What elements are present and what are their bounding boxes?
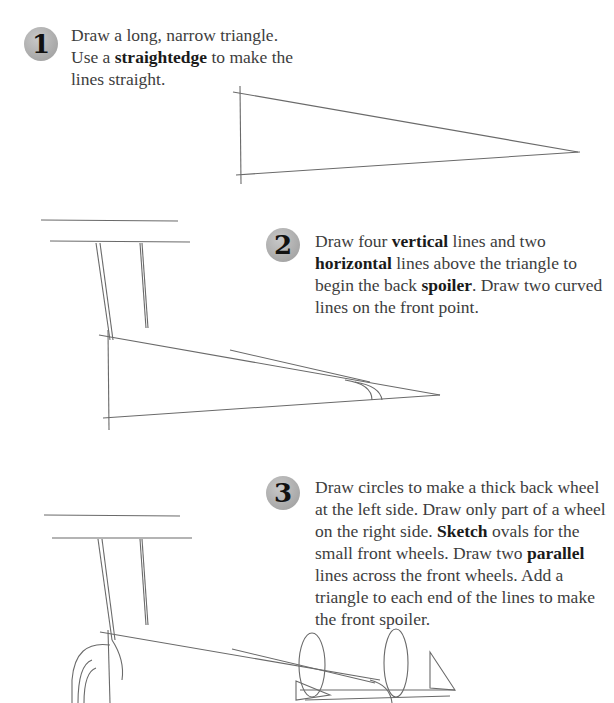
step-1-triangle-sketch [233, 86, 580, 184]
keyword-straightedge: straightedge [115, 47, 207, 67]
step-2-number-badge: 2 [266, 228, 300, 262]
keyword-parallel: parallel [527, 543, 584, 563]
keyword-vertical: vertical [392, 231, 448, 251]
step-3-instructions: Draw circles to make a thick back wheel … [315, 476, 614, 630]
step-1-number: 1 [32, 29, 50, 59]
step-1-number-badge: 1 [24, 27, 58, 61]
step-1-instructions: Draw a long, narrow triangle. Use a stra… [71, 24, 301, 90]
keyword-spoiler: spoiler [421, 275, 472, 295]
keyword-horizontal: horizontal [315, 253, 392, 273]
step-2-instructions: Draw four vertical lines and two horizon… [315, 230, 605, 318]
keyword-sketch: Sketch [437, 521, 488, 541]
step-2-number: 2 [274, 230, 292, 260]
step-3-number-badge: 3 [266, 476, 300, 510]
step-3-number: 3 [274, 478, 292, 508]
